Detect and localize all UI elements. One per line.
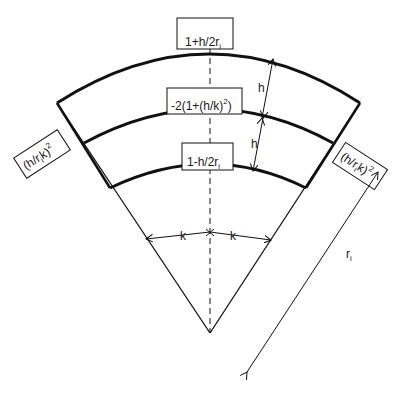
k-left-dimension [146, 232, 210, 239]
coef-center-box: -2(1+(h/k)2) [167, 88, 242, 114]
radius-dimension [247, 172, 378, 372]
svg-text:-2(1+(h/k)2): -2(1+(h/k)2) [171, 97, 232, 113]
radius-label: ri [346, 247, 352, 263]
h-lower-label: h [251, 137, 258, 151]
svg-text:1+h/2ri: 1+h/2ri [185, 35, 221, 51]
coef-bottom-box: 1-h/2ri [182, 143, 233, 171]
k-right-label: k [230, 229, 237, 243]
coef-left-box: (h/rik)2 [14, 130, 71, 178]
k-right-dimension [210, 232, 271, 240]
svg-text:1-h/2ri: 1-h/2ri [187, 155, 220, 171]
k-left-label: k [180, 229, 187, 243]
coef-right-box: (h/rik)2 [332, 142, 387, 189]
h-upper-label: h [258, 81, 265, 95]
coef-top-box: 1+h/2ri [177, 18, 233, 51]
stencil-diagram: 1+h/2ri -2(1+(h/k)2) 1-h/2ri (h/rik)2 (h… [0, 0, 401, 396]
